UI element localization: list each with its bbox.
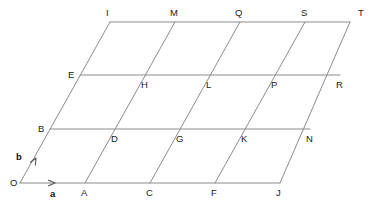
vector-label-a: a — [50, 189, 55, 199]
diagonal-A-M — [85, 22, 175, 183]
vertex-label-i: I — [106, 8, 109, 18]
vertex-label-h: H — [141, 80, 148, 90]
vertex-label-m: M — [170, 8, 178, 18]
basis-vector-arrows — [30, 158, 55, 186]
vertex-label-f: F — [211, 188, 217, 198]
vertex-label-t: T — [358, 8, 364, 18]
vertex-label-q: Q — [235, 8, 243, 18]
lattice-diagram-svg — [0, 0, 372, 209]
horizontal-grid-lines — [20, 22, 350, 183]
diagonal-C-Q — [150, 22, 240, 183]
vertex-label-n: N — [306, 134, 313, 144]
diagonal-F-S — [215, 22, 305, 183]
vertex-label-l: L — [206, 80, 211, 90]
vertex-label-a: A — [81, 188, 88, 198]
vertex-label-b: B — [38, 124, 45, 134]
vertex-label-k: K — [241, 134, 248, 144]
diagonal-O-I — [20, 22, 110, 183]
vertex-label-e: E — [68, 70, 75, 80]
vector-label-b: b — [16, 152, 22, 162]
vertex-label-s: S — [301, 8, 308, 18]
vertex-label-g: G — [176, 134, 184, 144]
diagonal-grid-lines — [20, 22, 350, 183]
vertex-label-o: O — [10, 178, 18, 188]
diagonal-J-T — [280, 22, 350, 183]
vertex-label-j: J — [276, 188, 281, 198]
vertex-label-r: R — [336, 80, 343, 90]
vertex-label-p: P — [271, 80, 278, 90]
vertex-label-c: C — [146, 188, 153, 198]
diagram-canvas: OACFJBDGKNEHLPRIMQST ab — [0, 0, 372, 209]
vertex-label-d: D — [111, 134, 118, 144]
